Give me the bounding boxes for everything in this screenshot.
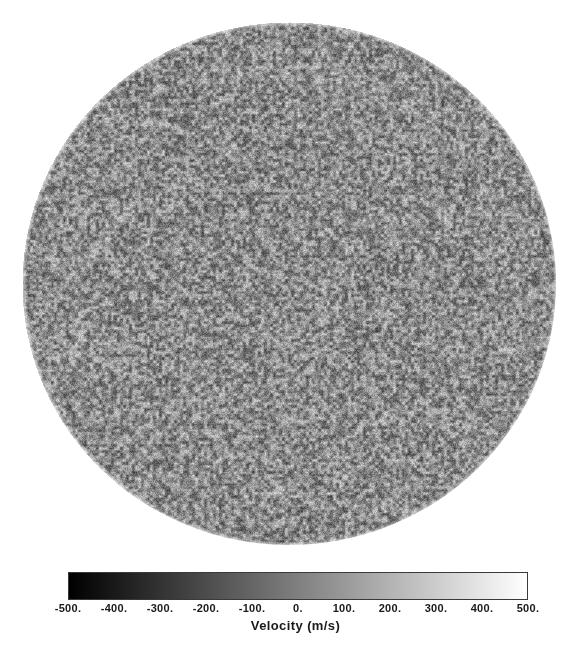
solar-disk-image xyxy=(22,22,556,545)
colorbar-axis-label-text: Velocity (m/s) xyxy=(251,618,340,633)
colorbar-tick-label: 200. xyxy=(379,601,402,615)
colorbar-tick-label: -200. xyxy=(193,601,220,615)
colorbar-axis-label: Velocity (m/s) xyxy=(0,618,585,633)
colorbar-tick-labels: -500.-400.-300.-200.-100.0.100.200.300.4… xyxy=(68,601,528,617)
colorbar-tick-label: 500. xyxy=(517,601,540,615)
colorbar-tick-label: 400. xyxy=(471,601,494,615)
figure-panel: -500.-400.-300.-200.-100.0.100.200.300.4… xyxy=(0,0,585,653)
colorbar-tick-label: -500. xyxy=(55,601,82,615)
colorbar-tick-label: -300. xyxy=(147,601,174,615)
colorbar-tick-label: 0. xyxy=(293,601,303,615)
colorbar-tick-label: -400. xyxy=(101,601,128,615)
colorbar-tick-label: 300. xyxy=(425,601,448,615)
colorbar-tick-label: -100. xyxy=(239,601,266,615)
velocity-colorbar[interactable] xyxy=(68,572,528,600)
colorbar-tick-label: 100. xyxy=(333,601,356,615)
solar-disk xyxy=(22,22,556,545)
